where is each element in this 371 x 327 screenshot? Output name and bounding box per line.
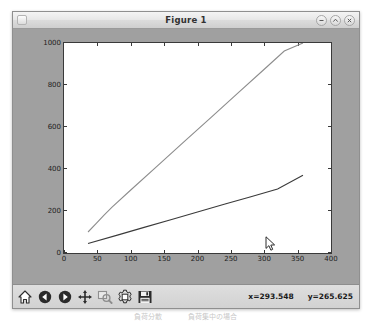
maximize-button[interactable]	[330, 15, 341, 26]
plot-axes[interactable]: 0 200 400 600 800 1000 0 50	[63, 42, 332, 254]
figure-canvas[interactable]: 0 200 400 600 800 1000 0 50	[13, 29, 359, 284]
series-upper-line	[88, 43, 303, 232]
pan-move-icon	[77, 289, 93, 305]
xtick-label: 150	[157, 255, 170, 263]
window-controls	[316, 15, 355, 26]
close-icon	[346, 17, 353, 24]
xtick-label: 200	[191, 255, 204, 263]
xtick-label: 350	[291, 255, 304, 263]
ytick-label: 1000	[43, 39, 61, 47]
xtick-label: 400	[324, 255, 337, 263]
caption-left-text: 負荷分散	[134, 311, 162, 321]
forward-arrow-icon	[57, 289, 73, 305]
pan-button[interactable]	[75, 287, 95, 307]
forward-button[interactable]	[55, 287, 75, 307]
x-coordinate-readout: x=293.548	[248, 292, 293, 301]
minimize-button[interactable]	[316, 15, 327, 26]
caption-right-text: 負荷集中の場合	[188, 311, 237, 321]
close-button[interactable]	[344, 15, 355, 26]
page-caption: 負荷分散 負荷集中の場合	[0, 311, 371, 327]
ytick-label: 800	[48, 81, 61, 89]
ytick-label: 200	[48, 207, 61, 215]
xtick-label: 50	[93, 255, 102, 263]
y-coordinate-readout: y=265.625	[308, 292, 353, 301]
xtick-label: 100	[124, 255, 137, 263]
back-button[interactable]	[35, 287, 55, 307]
series-lower-line	[88, 175, 303, 243]
home-icon	[17, 289, 33, 305]
zoom-rect-icon	[97, 289, 113, 305]
xtick-label: 300	[258, 255, 271, 263]
gear-icon	[117, 289, 133, 305]
ytick-label: 0	[57, 249, 61, 257]
ytick-label: 600	[48, 123, 61, 131]
home-button[interactable]	[15, 287, 35, 307]
back-arrow-icon	[37, 289, 53, 305]
maximize-icon	[332, 17, 339, 24]
configure-subplots-button[interactable]	[115, 287, 135, 307]
figure-window: Figure 1	[12, 11, 360, 309]
zoom-rect-button[interactable]	[95, 287, 115, 307]
xtick-mark	[331, 250, 332, 253]
window-titlebar[interactable]: Figure 1	[13, 12, 359, 29]
ytick-label: 400	[48, 165, 61, 173]
coordinate-readout: x=293.548 y=265.625	[248, 292, 353, 301]
xtick-label: 250	[224, 255, 237, 263]
save-figure-button[interactable]	[135, 287, 155, 307]
window-title: Figure 1	[13, 12, 359, 29]
plot-data-lines	[64, 43, 331, 253]
minimize-icon	[318, 17, 325, 24]
figure-icon	[17, 15, 27, 25]
floppy-disk-icon	[137, 289, 153, 305]
xtick-label: 0	[62, 255, 66, 263]
navigation-toolbar: x=293.548 y=265.625	[13, 284, 359, 308]
